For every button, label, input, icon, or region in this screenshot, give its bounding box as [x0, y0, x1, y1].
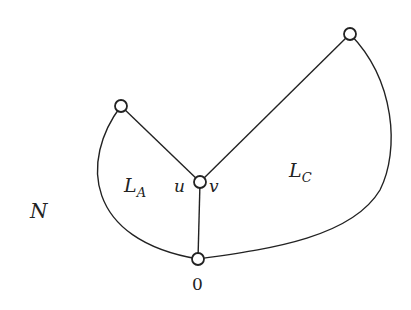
node-bottom [192, 253, 204, 265]
label-bottom-zero: 0 [192, 274, 203, 294]
edge-left-center [121, 106, 200, 182]
label-v: v [209, 176, 219, 196]
label-outer-n: N [29, 199, 49, 223]
label-region-right: LC [288, 159, 312, 185]
label-region-left: LA [123, 174, 146, 200]
node-right-top [344, 28, 356, 40]
graph-diagram: LA LC u v N 0 [0, 0, 411, 310]
node-center [194, 176, 206, 188]
label-u: u [174, 176, 185, 196]
edge-right-bottom-curve [198, 34, 391, 259]
node-left-top [115, 100, 127, 112]
edge-right-center [200, 34, 350, 182]
edge-center-bottom [198, 182, 200, 259]
